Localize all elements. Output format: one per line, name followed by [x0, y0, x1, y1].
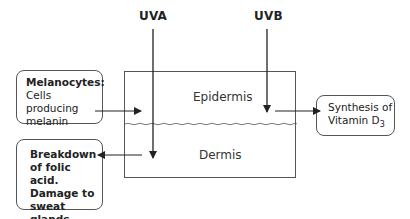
diagram-arrows: [0, 0, 410, 219]
epidermis-dermis-boundary: [125, 123, 297, 125]
